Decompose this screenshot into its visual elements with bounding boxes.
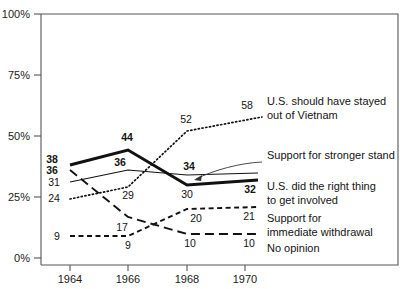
point-label-1970-58: 58 <box>241 99 253 111</box>
point-label-1968-20: 20 <box>190 212 202 224</box>
chart-page: 100% 75% 50% 25% 0% 1964 1966 1968 1970 … <box>0 0 410 289</box>
legend-label-right-thing-line1: U.S. did the right thing <box>267 180 376 192</box>
legend-label-stronger-stand: Support for stronger stand <box>267 149 395 161</box>
series-line-withdrawal <box>70 207 258 236</box>
point-label-1966-29: 29 <box>122 189 134 201</box>
xtick-label-1964: 1964 <box>58 273 82 285</box>
point-label-1964-24: 24 <box>48 192 60 204</box>
legend-label-no-opinion: No opinion <box>267 242 320 254</box>
point-label-1966-17: 17 <box>116 221 128 233</box>
ytick-label-25: 25% <box>8 191 30 203</box>
point-label-1968-10: 10 <box>184 237 196 249</box>
legend-label-right-thing-line2: to get involved <box>267 194 338 206</box>
point-label-1966-44: 44 <box>121 131 133 143</box>
leader-arrowhead <box>194 175 202 181</box>
point-label-1964-36: 36 <box>46 164 58 176</box>
point-label-1970-32: 32 <box>244 183 256 195</box>
line-chart: 100% 75% 50% 25% 0% 1964 1966 1968 1970 … <box>0 0 410 289</box>
point-label-1966-36: 36 <box>114 156 126 168</box>
ytick-label-0: 0% <box>14 252 30 264</box>
point-label-1970-10: 10 <box>243 237 255 249</box>
leader-line-stronger-stand <box>196 162 262 179</box>
ytick-label-75: 75% <box>8 69 30 81</box>
point-label-1966-9: 9 <box>125 239 131 251</box>
legend-label-stayed-out-line2: out of Vietnam <box>267 109 338 121</box>
legend-label-withdrawal-line2: immediate withdrawal <box>267 226 373 238</box>
legend-label-stayed-out-line1: U.S. should have stayed <box>267 95 386 107</box>
legend-label-withdrawal-line1: Support for <box>267 212 322 224</box>
series-line-no-opinion <box>70 170 258 234</box>
point-label-1964-9: 9 <box>54 230 60 242</box>
series-line-right-thing <box>70 150 258 185</box>
point-label-1970-21: 21 <box>243 210 255 222</box>
point-label-1964-31: 31 <box>48 176 60 188</box>
point-label-1968-52: 52 <box>180 113 192 125</box>
ytick-label-50: 50% <box>8 130 30 142</box>
xtick-label-1968: 1968 <box>175 273 199 285</box>
point-label-1968-30: 30 <box>181 188 193 200</box>
ytick-label-100: 100% <box>2 8 30 20</box>
xtick-label-1970: 1970 <box>233 273 257 285</box>
point-label-1968-34: 34 <box>183 160 195 172</box>
legend: U.S. should have stayed out of Vietnam S… <box>267 95 395 254</box>
xtick-label-1966: 1966 <box>116 273 140 285</box>
